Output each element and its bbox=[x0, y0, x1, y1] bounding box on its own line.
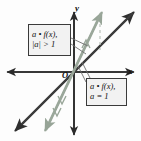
callout-identity-line2: a = 1 bbox=[90, 92, 109, 102]
coordinate-plane-svg bbox=[0, 0, 141, 141]
graph-figure: a • f(x), |a| > 1 a • f(x), a = 1 y x O bbox=[0, 0, 141, 141]
y-axis-label: y bbox=[75, 3, 79, 13]
x-axis-label: x bbox=[128, 66, 133, 76]
origin-label: O bbox=[62, 70, 68, 80]
callout-scale-label: a • f(x), |a| > 1 bbox=[28, 24, 71, 56]
callout-scale-line2: |a| > 1 bbox=[32, 40, 55, 50]
callout-identity-label: a • f(x), a = 1 bbox=[86, 78, 127, 106]
